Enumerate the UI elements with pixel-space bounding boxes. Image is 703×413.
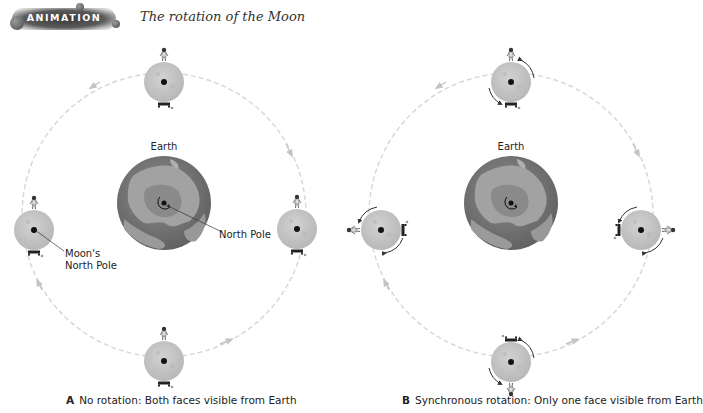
moon-north-pole-label-2: North Pole xyxy=(65,260,117,271)
moon-icon xyxy=(14,196,54,257)
panel-a: Earth North Pole Moon's North Pole xyxy=(14,48,317,389)
earth-icon xyxy=(117,156,211,250)
moon-icon xyxy=(144,327,184,389)
moon-icon xyxy=(489,48,534,110)
caption-b-text: Synchronous rotation: Only one face visi… xyxy=(415,394,703,406)
panel-b: Earth xyxy=(347,48,675,396)
orbit-arrow-icon xyxy=(438,82,446,87)
moon-icon xyxy=(277,195,317,256)
earth-label: Earth xyxy=(498,141,525,152)
caption-b: BSynchronous rotation: Only one face vis… xyxy=(402,394,703,406)
earth-label: Earth xyxy=(151,141,178,152)
earth-icon xyxy=(464,156,558,250)
moon-icon xyxy=(489,335,534,397)
caption-a: ANo rotation: Both faces visible from Ea… xyxy=(66,394,297,406)
caption-a-text: No rotation: Both faces visible from Ear… xyxy=(79,394,296,406)
moon-north-pole-label-1: Moon's xyxy=(65,248,100,259)
moon-icon xyxy=(347,207,409,253)
moon-icon xyxy=(614,207,676,253)
moon-icon xyxy=(144,48,184,110)
orbit-arrow-icon xyxy=(92,82,100,87)
caption-b-letter: B xyxy=(402,394,410,406)
caption-a-letter: A xyxy=(66,394,74,406)
north-pole-label: North Pole xyxy=(219,229,271,240)
